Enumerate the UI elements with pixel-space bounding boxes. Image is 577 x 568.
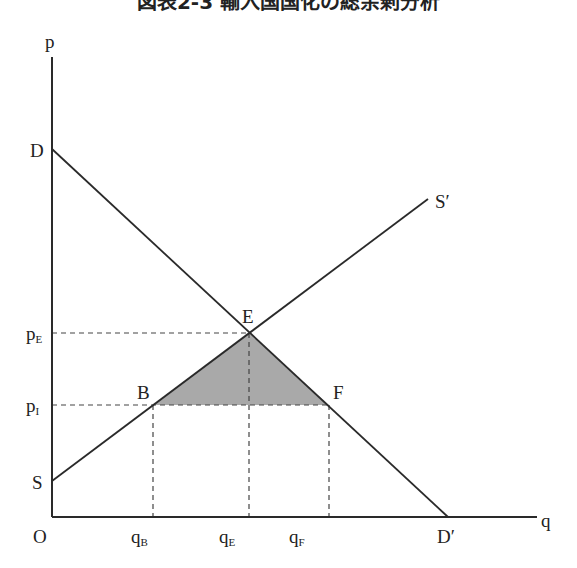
supply-demand-diagram: p q O D D′ S S′ E B F pE pI qB qE qF <box>0 0 577 568</box>
x-axis-label: q <box>541 510 551 531</box>
y-tick-pE: pE <box>26 323 43 345</box>
supply-curve <box>52 199 428 481</box>
supply-end-label: S′ <box>435 191 450 212</box>
demand-end-label: D′ <box>437 526 455 547</box>
x-tick-qE: qE <box>219 526 236 548</box>
origin-label: O <box>33 526 47 547</box>
point-B-label: B <box>137 382 150 403</box>
point-E-label: E <box>242 306 254 327</box>
supply-start-label: S <box>32 472 43 493</box>
demand-start-label: D <box>30 140 44 161</box>
shaded-triangle-BEF <box>153 333 329 405</box>
y-axis-label: p <box>45 31 55 52</box>
y-tick-pI: pI <box>26 395 40 417</box>
point-F-label: F <box>333 382 344 403</box>
x-tick-qF: qF <box>289 526 305 548</box>
x-tick-qB: qB <box>131 526 148 548</box>
